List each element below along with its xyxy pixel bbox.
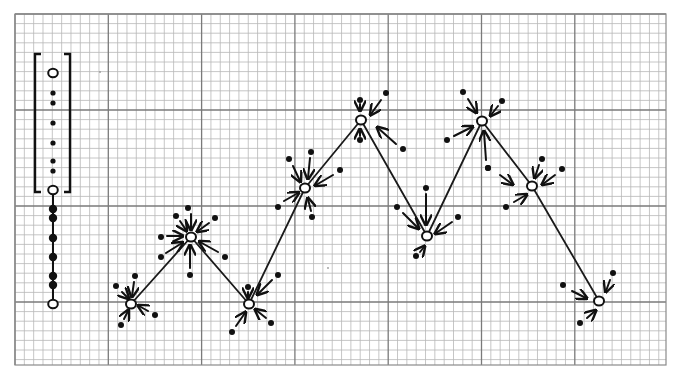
- satellite-dot: [113, 283, 119, 289]
- satellite-dot: [394, 204, 400, 210]
- arrow-icon: [132, 282, 134, 296]
- satellite-dot: [559, 166, 565, 172]
- satellite-dot: [185, 205, 191, 211]
- satellite-dot: [118, 322, 124, 328]
- satellite-dot: [610, 270, 616, 276]
- satellite-dot: [268, 320, 274, 326]
- legend-large-dot: [49, 205, 57, 213]
- path-nodes: [126, 116, 604, 309]
- node-open-circle: [527, 182, 537, 191]
- arrow-icon: [543, 175, 555, 184]
- satellite-dot: [423, 185, 429, 191]
- node-open-circle: [186, 233, 196, 242]
- node-open-circle: [356, 116, 366, 125]
- satellite-dot: [229, 329, 235, 335]
- satellite-dot: [560, 282, 566, 288]
- arrow-icon: [500, 175, 512, 184]
- node-open-circle: [477, 117, 487, 126]
- satellite-dot: [413, 253, 419, 259]
- satellite-dot: [357, 97, 363, 103]
- arrow-icon: [139, 306, 148, 311]
- arrow-icon: [484, 132, 486, 160]
- satellite-dot: [286, 156, 292, 162]
- arrow-icon: [293, 166, 300, 181]
- arrow-icon: [236, 313, 245, 326]
- legend-small-dot: [50, 120, 55, 125]
- satellite-dot: [152, 312, 158, 318]
- arrow-icon: [378, 128, 396, 144]
- legend-large-dot: [49, 281, 57, 289]
- legend-small-dot: [50, 158, 55, 163]
- satellite-dot: [212, 215, 218, 221]
- arrow-icon: [198, 223, 209, 231]
- satellite-dot: [357, 137, 363, 143]
- satellite-dot: [337, 167, 343, 173]
- arrow-icon: [308, 158, 310, 178]
- legend-open-circle: [48, 186, 58, 195]
- right-bracket: [64, 54, 70, 192]
- legend-small-dot: [50, 90, 55, 95]
- satellite-dot: [222, 254, 228, 260]
- arrow-icon: [284, 193, 298, 201]
- satellite-dot: [499, 98, 505, 104]
- legend-small-dot: [50, 100, 55, 105]
- satellite-dot: [275, 272, 281, 278]
- satellite-dot: [309, 214, 315, 220]
- legend-large-dot: [49, 272, 57, 280]
- grid-major-lines: [15, 14, 666, 365]
- satellite-dot: [460, 89, 466, 95]
- grid-frame: [15, 14, 666, 365]
- graph-paper-diagram: [0, 0, 685, 382]
- arrow-icon: [606, 280, 610, 291]
- legend-open-circle: [48, 69, 58, 78]
- stray-mark: [99, 71, 101, 73]
- satellite-dot: [158, 234, 164, 240]
- stray-mark: [327, 267, 329, 269]
- satellite-dot: [308, 149, 314, 155]
- arrow-icon: [124, 311, 128, 319]
- legend-small-dot: [50, 140, 55, 145]
- node-open-circle: [126, 300, 136, 309]
- satellite-dot: [245, 284, 251, 290]
- satellite-dot: [383, 90, 389, 96]
- legend-open-circle: [48, 300, 58, 309]
- arrow-icon: [308, 199, 311, 211]
- satellite-dot: [455, 214, 461, 220]
- satellite-dot: [173, 213, 179, 219]
- arrow-icon: [316, 175, 333, 185]
- left-bracket: [35, 54, 41, 192]
- satellite-dot: [485, 165, 491, 171]
- arrow-icon: [371, 100, 381, 114]
- satellite-dot: [158, 254, 164, 260]
- node-open-circle: [244, 300, 254, 309]
- legend-small-dot: [50, 168, 55, 173]
- arrow-icon: [420, 247, 424, 252]
- grid-minor-lines: [15, 14, 666, 365]
- node-open-circle: [422, 232, 432, 241]
- satellite-dot: [187, 272, 193, 278]
- legend-large-dot: [49, 214, 57, 222]
- satellite-dot: [539, 156, 545, 162]
- satellite-arrows: [122, 99, 610, 326]
- arrow-icon: [535, 165, 539, 177]
- satellite-dot: [444, 137, 450, 143]
- legend-large-dot: [49, 253, 57, 261]
- satellite-dot: [132, 273, 138, 279]
- satellite-dot: [275, 204, 281, 210]
- satellite-dot: [577, 320, 583, 326]
- node-open-circle: [594, 297, 604, 306]
- node-open-circle: [300, 184, 310, 193]
- satellite-dot: [400, 146, 406, 152]
- satellite-dot: [503, 204, 509, 210]
- legend-large-dot: [49, 234, 57, 242]
